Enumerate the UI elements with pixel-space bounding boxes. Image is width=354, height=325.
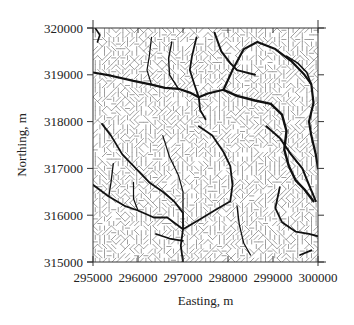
x-tick-label: 297000	[164, 270, 203, 285]
y-tick-label: 319000	[44, 67, 83, 82]
y-tick-label: 315000	[44, 255, 83, 270]
x-tick-label: 299000	[254, 270, 293, 285]
y-tick-label: 317000	[44, 161, 83, 176]
x-tick-label: 296000	[119, 270, 158, 285]
x-tick-label: 298000	[209, 270, 248, 285]
y-tick-label: 318000	[44, 114, 83, 129]
y-tick-label: 316000	[44, 208, 83, 223]
y-tick-label: 320000	[44, 21, 83, 36]
y-axis-title: Northing, m	[14, 113, 29, 177]
x-tick-label: 300000	[299, 270, 338, 285]
drainage-network-chart: 295000296000297000298000299000300000 315…	[0, 0, 354, 325]
x-axis-title: Easting, m	[178, 293, 234, 308]
x-tick-label: 295000	[74, 270, 113, 285]
